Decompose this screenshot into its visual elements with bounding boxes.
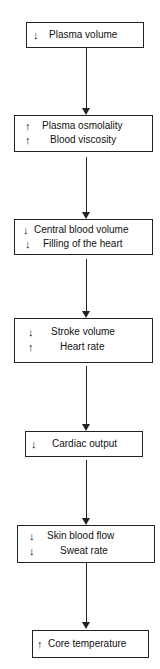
- connector-line: [86, 563, 87, 623]
- arrowhead-icon: [82, 311, 90, 318]
- arrow-down-icon: ↓: [29, 530, 35, 542]
- connector-line: [86, 157, 87, 212]
- arrowhead-icon: [82, 424, 90, 431]
- arrow-down-icon: ↓: [31, 438, 37, 450]
- arrow-up-icon: ↑: [25, 120, 31, 132]
- node-cardiac-output: ↓ Cardiac output: [25, 431, 143, 457]
- node-central-blood-volume: ↓ Central blood volume ↓ Filling of the …: [14, 219, 153, 255]
- arrow-down-icon: ↓: [25, 238, 31, 250]
- node-osmolality-viscosity: ↑ Plasma osmolality ↑ Blood viscosity: [14, 115, 153, 152]
- node-label: Skin blood flow: [47, 530, 114, 542]
- node-stroke-heart: ↓ Stroke volume ↑ Heart rate: [14, 318, 153, 363]
- node-label: Plasma volume: [49, 29, 117, 41]
- node-label: Blood viscosity: [50, 134, 116, 146]
- arrow-up-icon: ↑: [28, 341, 34, 353]
- arrow-down-icon: ↓: [29, 545, 35, 557]
- node-label: Central blood volume: [34, 224, 129, 236]
- arrowhead-icon: [82, 622, 90, 629]
- node-label: Cardiac output: [52, 438, 117, 450]
- node-label: Stroke volume: [51, 326, 115, 338]
- arrow-up-icon: ↑: [37, 638, 43, 650]
- arrow-down-icon: ↓: [23, 224, 29, 236]
- arrowhead-icon: [82, 108, 90, 115]
- node-core-temperature: ↑ Core temperature: [32, 630, 149, 658]
- connector-line: [86, 460, 87, 518]
- arrow-down-icon: ↓: [33, 29, 39, 41]
- arrowhead-icon: [82, 212, 90, 219]
- node-skin-sweat: ↓ Skin blood flow ↓ Sweat rate: [17, 525, 155, 563]
- node-plasma-volume: ↓ Plasma volume: [26, 22, 144, 48]
- node-label: Plasma osmolality: [42, 120, 123, 132]
- node-label: Sweat rate: [60, 545, 108, 557]
- node-label: Core temperature: [48, 638, 126, 650]
- node-label: Filling of the heart: [43, 238, 123, 250]
- arrow-down-icon: ↓: [28, 326, 34, 338]
- connector-line: [86, 48, 87, 108]
- arrowhead-icon: [82, 518, 90, 525]
- connector-line: [86, 366, 87, 424]
- connector-line: [86, 259, 87, 311]
- arrow-up-icon: ↑: [25, 134, 31, 146]
- node-label: Heart rate: [60, 341, 104, 353]
